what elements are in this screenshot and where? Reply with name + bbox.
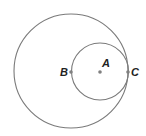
point-b-dot	[69, 70, 73, 74]
label-c: C	[131, 66, 140, 78]
label-b: B	[60, 66, 68, 78]
point-c-dot	[126, 70, 130, 74]
label-a: A	[101, 57, 110, 69]
circles-diagram: B A C	[0, 0, 146, 136]
point-a-dot	[98, 70, 102, 74]
